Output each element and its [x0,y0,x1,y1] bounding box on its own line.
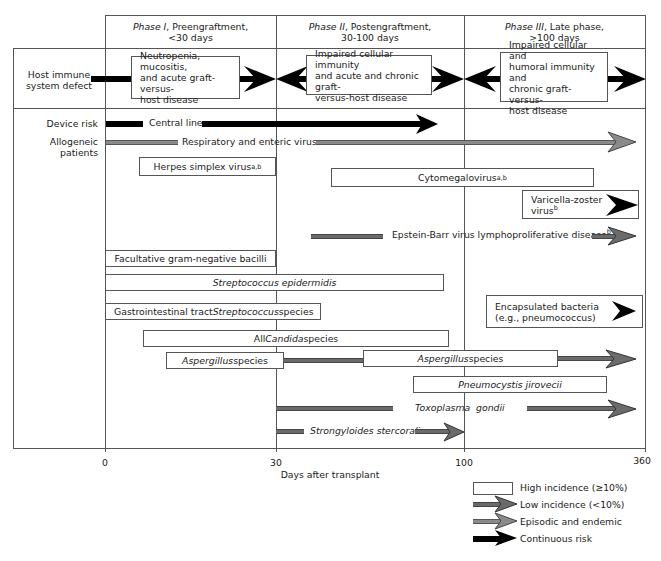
resp-enteric-bar [106,140,178,145]
host-immune-label: Host immunesystem defect [18,69,100,91]
continuous-risk-arrowhead-icon [606,193,640,217]
immune-defect-phase-2: Impaired cellular immunityand acute and … [306,55,432,95]
allogeneic-label: Allogeneicpatients [20,136,98,158]
immune-defect-phase-1: Neutropenia, mucositis,and acute graft-v… [131,56,240,99]
phase-2-range: 30-100 days [341,32,399,43]
legend-continuous-label: Continuous risk [520,533,592,544]
toxoplasma-bar-2 [527,406,617,411]
phase-1-title: , Preengraftment, [166,21,248,32]
tick-360: 360 [628,455,656,466]
phase-3-roman: Phase III [505,21,544,32]
low-incidence-arrowhead-icon [608,226,638,246]
candida-box: All Candida species [143,330,449,347]
phase-1-range: <30 days [168,32,213,43]
pneumocystis-box: Pneumocystis jirovecii [413,376,607,393]
arrowhead-left-icon [464,64,498,94]
arrowhead-left-icon [276,64,310,94]
legend-low-incidence-arrowhead-icon [495,495,519,513]
aspergillus-box-2: Aspergillus species [363,350,558,367]
header-top-border [105,15,646,16]
strongyloides-bar [276,429,304,434]
gram-negative-box: Facultative gram-negative bacilli [105,250,276,267]
strongyloides-label: Strongyloides stercoralis [310,425,425,436]
aspergillus-box-1: Aspergillus species [166,352,284,369]
hsv-box: Herpes simplex virusa,b [139,157,276,176]
aspergillus-bar [284,358,364,363]
central-line-bar [106,121,143,127]
arrowhead-right-icon [432,64,466,94]
tick-100: 100 [450,457,478,468]
immune-defect-phase-3: Impaired cellular andhumoral immunity an… [500,52,608,102]
ebv-bar [311,234,383,239]
gi-strep-box: Gastrointestinal tract Streptococcus spe… [105,303,321,320]
legend-episodic-label: Episodic and endemic [520,516,622,527]
arrowhead-right-icon [614,64,648,94]
tick-30: 30 [264,457,288,468]
episodic-arrowhead-icon [608,131,638,153]
low-incidence-arrowhead-icon [606,349,638,369]
grid-left-border [13,48,14,448]
low-incidence-arrowhead-icon [444,422,466,442]
legend-episodic-arrowhead-icon [495,512,519,530]
phase-2-roman: Phase II [309,21,345,32]
ebv-label: Epstein-Barr virus lymphoproliferative d… [392,229,611,240]
legend-low-incidence-label: Low incidence (<10%) [520,499,624,510]
grid-bottom-border [13,448,646,449]
strep-epidermidis-box: Streptococcus epidermidis [105,274,444,291]
low-incidence-arrowhead-icon [608,399,638,419]
phase-2-title: , Postengraftment, [345,21,431,32]
cmv-box: Cytomegalovirusa,b [331,168,594,187]
continuous-risk-arrowhead-icon [612,300,638,322]
resp-enteric-bar-2 [316,140,618,145]
continuous-risk-arrowhead-icon [416,113,440,135]
legend-high-incidence-label: High incidence (≥10%) [520,482,628,493]
device-risk-label: Device risk [20,118,98,129]
phase-1-roman: Phase I [133,21,166,32]
resp-enteric-label: Respiratory and enteric viruses [182,136,327,147]
central-line-bar-2 [202,121,422,127]
immune-defect-line [91,76,131,82]
legend-high-incidence-swatch [473,482,513,495]
phase-3-title: , Late phase, [544,21,604,32]
toxoplasma-bar [276,406,393,411]
legend-continuous-arrowhead-icon [495,529,519,547]
phase-1-header: Phase I, Preengraftment, <30 days [105,21,276,43]
central-line-label: Central line [149,117,203,128]
arrowhead-right-icon [244,64,278,94]
phase-2-header: Phase II, Postengraftment, 30-100 days [276,21,464,43]
toxoplasma-label: Toxoplasma gondii [415,402,505,413]
x-axis-label: Days after transplant [230,469,430,480]
tick-0: 0 [95,457,115,468]
